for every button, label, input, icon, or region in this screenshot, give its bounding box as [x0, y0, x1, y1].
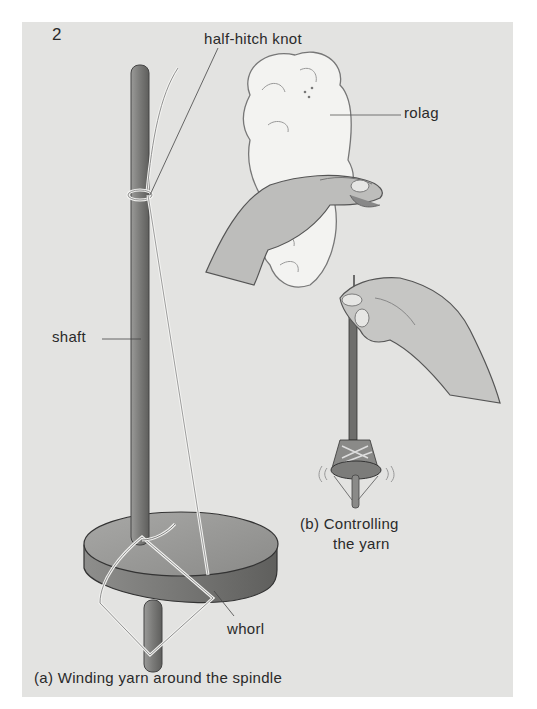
leader-knot	[150, 48, 218, 195]
spindle-illustration	[0, 0, 537, 709]
right-hand	[340, 278, 500, 403]
label-whorl: whorl	[227, 620, 264, 637]
caption-b-line1: (b) Controlling	[300, 515, 399, 532]
label-shaft: shaft	[52, 328, 86, 345]
caption-b: (b) Controlling the yarn	[300, 514, 399, 554]
label-rolag: rolag	[404, 104, 439, 121]
caption-a: (a) Winding yarn around the spindle	[34, 669, 282, 686]
figure-number: 2	[52, 25, 62, 45]
label-half-hitch-knot: half-hitch knot	[204, 30, 302, 47]
caption-b-line2: the yarn	[300, 534, 399, 554]
